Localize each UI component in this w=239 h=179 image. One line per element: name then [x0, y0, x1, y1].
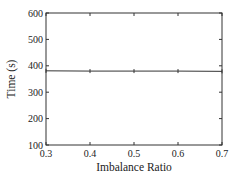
y-tick-label: 300 [28, 87, 43, 98]
y-tick-label: 500 [28, 34, 43, 45]
y-tick-label: 200 [28, 113, 43, 124]
chart: 100200300400500600 0.30.40.50.60.7 Imbal… [0, 0, 239, 179]
x-axis: 0.30.40.50.60.7 [40, 13, 229, 159]
plot-area [46, 13, 222, 145]
plot-frame [46, 13, 222, 145]
y-tick-label: 400 [28, 60, 43, 71]
x-tick-label: 0.5 [128, 148, 141, 159]
x-axis-label: Imbalance Ratio [96, 161, 172, 173]
x-tick-label: 0.7 [216, 148, 229, 159]
x-tick-label: 0.4 [84, 148, 97, 159]
y-tick-label: 600 [28, 8, 43, 19]
y-axis-label: Time (s) [5, 59, 18, 98]
y-axis: 100200300400500600 [28, 8, 222, 151]
x-tick-label: 0.6 [172, 148, 185, 159]
x-tick-label: 0.3 [40, 148, 53, 159]
